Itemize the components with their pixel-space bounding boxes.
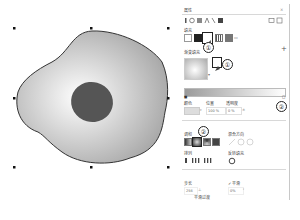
pattern-fill-button[interactable] <box>215 34 223 42</box>
edit-fill-icon <box>213 64 221 73</box>
edit-fill-button[interactable] <box>212 57 222 68</box>
properties-panel: 属性 × 填充 ▭ ① 渐变填充 + ▾ ① ■ □ 颜色 位置 透明度 <box>180 4 290 200</box>
transparency-spinner-icon[interactable]: ± <box>242 107 245 112</box>
acceleration-spinner-icon[interactable]: ⁞ <box>243 187 244 192</box>
smooth-checkbox-icon[interactable]: ✓ <box>228 181 231 186</box>
character-icon <box>205 18 209 23</box>
curve-icon <box>212 18 215 23</box>
fountain-type-buttons <box>184 138 224 146</box>
callout-2-type: ② <box>198 126 209 137</box>
fill-preview[interactable] <box>184 58 208 80</box>
steps-field[interactable]: 256 <box>184 187 198 195</box>
no-fill-button[interactable] <box>184 34 192 42</box>
acceleration-field[interactable]: 0% <box>228 187 244 195</box>
fill-bucket-icon <box>190 18 195 23</box>
uniform-fill-button[interactable] <box>194 34 202 42</box>
smooth-transition-label[interactable]: 平滑过渡 <box>194 195 210 200</box>
color-ramp[interactable] <box>184 88 286 97</box>
close-button[interactable]: × <box>280 7 283 12</box>
handle-bottom-center <box>90 166 93 169</box>
ramp-node-end-icon[interactable]: □ <box>282 95 285 100</box>
color-dropdown-icon[interactable]: ▾ <box>200 108 202 113</box>
bitmap-fill-button[interactable] <box>225 34 233 42</box>
callout-2-ramp: ② <box>276 101 287 112</box>
position-label: 位置 <box>206 101 214 106</box>
mode-label: 排列 <box>184 151 192 156</box>
steps-lock-icon[interactable]: ⊥ <box>198 187 201 192</box>
more-fill-icon[interactable]: ▭ <box>234 35 238 40</box>
counterclockwise-blend-icon <box>247 139 253 145</box>
handle-middle-left <box>13 97 16 100</box>
fill-section-label: 填充 <box>184 28 192 33</box>
blend-direction-buttons[interactable] <box>228 138 258 146</box>
clockwise-blend-icon <box>238 139 244 145</box>
transparency-field[interactable]: 0 % <box>226 107 242 115</box>
linear-type-button[interactable] <box>184 138 192 146</box>
handle-bottom-right <box>167 166 170 169</box>
conical-type-button[interactable] <box>203 138 211 146</box>
callout-1-edit: ① <box>222 59 233 70</box>
callout-1-top: ① <box>203 42 214 53</box>
drawing-canvas[interactable] <box>0 0 175 220</box>
fountain-fill-label: 渐变填充 <box>184 50 200 55</box>
panel-options[interactable] <box>268 17 286 24</box>
handle-top-left <box>13 27 16 30</box>
transparency-label: 透明度 <box>226 101 238 106</box>
add-icon[interactable]: + <box>281 47 287 52</box>
steps-label: 步长 <box>184 181 192 186</box>
elliptical-type-button[interactable] <box>192 137 202 147</box>
blend-label: 调和 <box>184 132 192 137</box>
node-color-swatch[interactable] <box>184 107 200 115</box>
transparency-icon <box>197 18 202 23</box>
handle-top-right <box>167 27 170 30</box>
direct-blend-icon <box>229 139 235 145</box>
mirror-mode-icon <box>204 158 211 163</box>
canvas-svg <box>0 0 175 220</box>
smooth-label: 平滑 <box>232 181 240 186</box>
property-tabs[interactable] <box>184 17 244 24</box>
reverse-label: 反转填充 <box>228 151 244 156</box>
page-icon <box>277 18 282 23</box>
repeat-mode-icon <box>192 158 199 163</box>
handle-top-center <box>90 27 93 30</box>
frame-icon <box>218 18 223 23</box>
position-field[interactable]: 100 % <box>206 107 226 115</box>
color-label: 颜色 <box>184 101 192 106</box>
handle-middle-right <box>167 97 170 100</box>
fill-type-buttons: ▭ <box>184 34 244 42</box>
reverse-fill-button[interactable] <box>228 157 236 165</box>
panel-title: 属性 <box>184 8 192 13</box>
rectangular-type-button[interactable] <box>212 138 220 146</box>
handle-bottom-left <box>13 166 16 169</box>
preview-dropdown-icon[interactable]: ▾ <box>208 72 210 77</box>
outline-pen-icon <box>185 18 187 23</box>
blend-direction-label: 混合方向 <box>228 132 244 137</box>
mode-buttons[interactable] <box>184 157 220 164</box>
copy-icon <box>269 19 274 23</box>
ramp-node-start-icon[interactable]: ■ <box>184 95 187 100</box>
reverse-fill-icon <box>229 158 235 164</box>
default-mode-icon <box>185 158 187 163</box>
